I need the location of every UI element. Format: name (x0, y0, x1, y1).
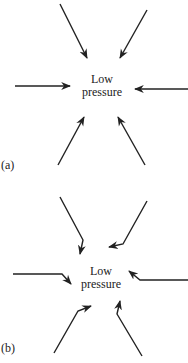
arrow-left (13, 274, 71, 284)
low-pressure-diagram: Low pressure (a) Low pressure (b) (0, 0, 188, 363)
arrow-lower-right (118, 117, 145, 165)
label-pressure: pressure (81, 277, 121, 291)
label-low: Low (90, 264, 112, 278)
label-low: Low (91, 72, 113, 86)
panel-b: Low pressure (b) (1, 197, 188, 356)
panel-a: Low pressure (a) (1, 4, 188, 172)
arrow-upper-left (60, 4, 87, 58)
arrow-upper-left (60, 197, 83, 254)
arrow-right (129, 271, 188, 280)
arrow-upper-right (120, 10, 147, 58)
arrow-lower-right (117, 301, 142, 356)
arrow-lower-left (54, 306, 91, 353)
panel-tag-a: (a) (1, 158, 14, 172)
arrow-lower-left (58, 117, 84, 165)
label-pressure: pressure (82, 85, 122, 99)
arrow-upper-right (109, 201, 147, 247)
panel-tag-b: (b) (1, 341, 15, 355)
